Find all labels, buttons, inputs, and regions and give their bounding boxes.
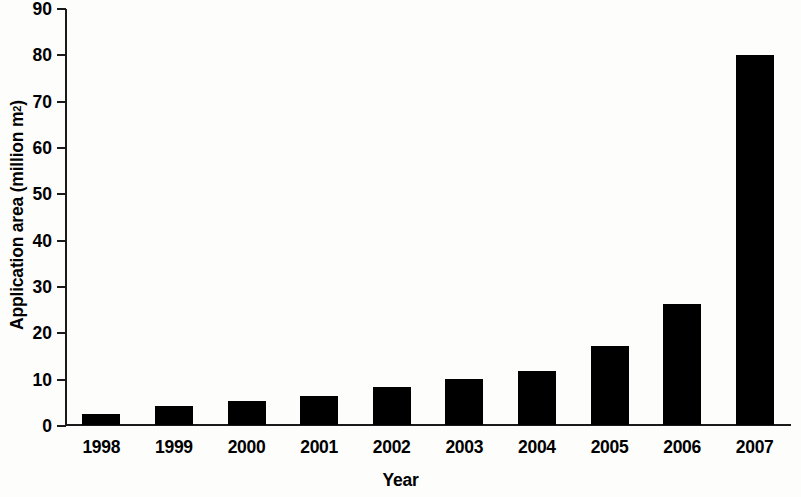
x-axis-tick-label: 1998 [82, 437, 120, 458]
bar [155, 406, 193, 425]
x-axis-tick-label: 2001 [300, 437, 338, 458]
y-axis-tick-mark [57, 332, 66, 334]
x-axis-tick-label: 2005 [591, 437, 629, 458]
y-axis-tick-mark [57, 8, 66, 10]
y-axis-title-text: Application area (million m [7, 112, 28, 330]
x-axis-tick-label: 2006 [663, 437, 701, 458]
x-axis-tick-label: 2004 [518, 437, 556, 458]
y-axis-tick-mark [57, 54, 66, 56]
x-axis-tick-label: 2000 [228, 437, 266, 458]
x-axis-tick-label: 2007 [736, 437, 774, 458]
y-axis-title-closing-paren: ) [7, 100, 28, 106]
y-axis-tick-mark [57, 193, 66, 195]
y-axis-tick-mark [57, 379, 66, 381]
y-axis-tick-label: 0 [42, 416, 52, 437]
x-axis-tick-label: 2002 [373, 437, 411, 458]
y-axis-tick-label: 90 [33, 0, 52, 20]
y-axis-tick-label: 80 [33, 45, 52, 66]
bar [300, 396, 338, 425]
y-axis-tick-label: 70 [33, 91, 52, 112]
y-axis-tick-label: 60 [33, 138, 52, 159]
y-axis-tick-mark [57, 101, 66, 103]
bar [82, 414, 120, 425]
y-axis-title: Application area (million m2) [4, 0, 30, 430]
y-axis-tick-label: 40 [33, 230, 52, 251]
y-axis-tick-mark [57, 286, 66, 288]
x-axis-tick-label: 2003 [445, 437, 483, 458]
y-axis-tick-label: 10 [33, 369, 52, 390]
plot-area: 0102030405060708090 [65, 9, 791, 426]
y-axis-line [65, 9, 67, 426]
x-axis-title: Year [0, 470, 801, 491]
y-axis-tick-mark [57, 147, 66, 149]
bar [373, 387, 411, 425]
bar [518, 371, 556, 425]
bar [228, 401, 266, 425]
bar [445, 379, 483, 425]
bar [591, 346, 629, 425]
bar [736, 55, 774, 425]
bar [663, 304, 701, 425]
x-axis-tick-label: 1999 [155, 437, 193, 458]
y-axis-tick-mark [57, 425, 66, 427]
y-axis-tick-mark [57, 240, 66, 242]
y-axis-tick-label: 30 [33, 277, 52, 298]
y-axis-tick-label: 50 [33, 184, 52, 205]
y-axis-tick-label: 20 [33, 323, 52, 344]
bar-chart-figure: Application area (million m2) 0102030405… [0, 0, 801, 497]
